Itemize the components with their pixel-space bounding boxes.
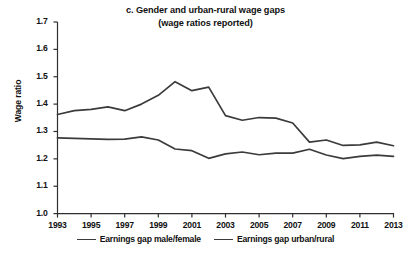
x-axis-ticks [58,214,394,218]
x-tick-label: 2007 [275,220,311,230]
legend-label-male-female: Earnings gap male/female [100,234,201,244]
y-tick-label: 1.0 [22,208,48,218]
x-tick-label: 1997 [107,220,143,230]
y-tick-label: 1.7 [22,16,48,26]
plot-area [0,0,411,254]
legend-item-urban-rural[interactable]: Earnings gap urban/rural [214,234,334,244]
data-series [58,82,394,159]
x-tick-label: 1993 [40,220,76,230]
chart-legend: Earnings gap male/female Earnings gap ur… [0,234,411,244]
x-tick-label: 2005 [241,220,277,230]
y-tick-label: 1.2 [22,153,48,163]
series-line-male-female [58,82,394,146]
legend-label-urban-rural: Earnings gap urban/rural [237,234,334,244]
y-tick-label: 1.3 [22,125,48,135]
series-line-urban-rural [58,137,394,159]
x-tick-label: 1999 [140,220,176,230]
y-tick-label: 1.6 [22,43,48,53]
axis-lines [57,22,394,214]
chart-figure: c. Gender and urban-rural wage gaps (wag… [0,0,411,254]
legend-line-swatch-male-female [77,239,96,240]
y-tick-label: 1.4 [22,98,48,108]
x-tick-label: 2013 [376,220,411,230]
x-tick-label: 2001 [174,220,210,230]
y-tick-label: 1.1 [22,180,48,190]
x-tick-label: 1995 [73,220,109,230]
x-tick-label: 2003 [208,220,244,230]
legend-item-male-female[interactable]: Earnings gap male/female [77,234,201,244]
x-tick-label: 2011 [342,220,378,230]
y-tick-label: 1.5 [22,71,48,81]
x-tick-label: 2009 [308,220,344,230]
legend-line-swatch-urban-rural [214,239,233,240]
